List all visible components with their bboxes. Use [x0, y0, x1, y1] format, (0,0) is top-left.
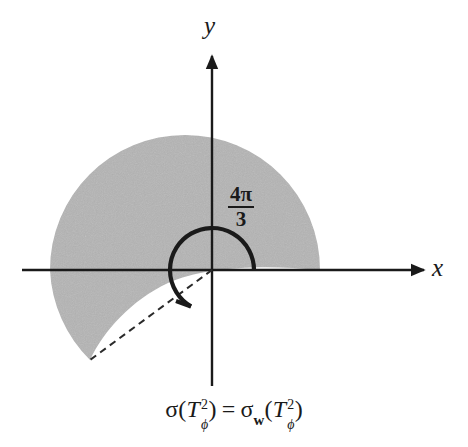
close-paren-left: ): [208, 396, 216, 422]
sigma-symbol-left: σ: [165, 396, 178, 422]
angle-fraction-numerator: 4π: [228, 184, 254, 206]
t-subscript-right: ϕ: [287, 418, 294, 432]
t-symbol-left: T: [186, 396, 200, 422]
y-axis-label: y: [204, 12, 215, 40]
t-superscript-left: 2: [201, 398, 208, 412]
t-symbol-right: T: [273, 396, 287, 422]
sigma-symbol-right: σ: [240, 396, 253, 422]
angle-arc-terminus: [176, 301, 191, 306]
caption-formula: σ(T2ϕ)=σw(T2ϕ): [0, 396, 468, 438]
t-subsup-right: 2ϕ: [287, 407, 294, 439]
shaded-sector-group: [50, 135, 320, 360]
t-subscript-left: ϕ: [201, 418, 208, 432]
t-superscript-right: 2: [287, 398, 294, 412]
open-paren-right: (: [264, 396, 272, 422]
angle-fraction-denominator: 3: [234, 208, 249, 230]
math-figure: y x 4π 3 σ(T2ϕ)=σw(T2ϕ): [0, 0, 468, 447]
sigma-w-subscript: w: [254, 412, 265, 428]
t-subsup-left: 2ϕ: [201, 407, 208, 439]
close-paren-right: ): [295, 396, 303, 422]
angle-measure-label: 4π 3: [228, 184, 254, 231]
shaded-sector: [50, 135, 320, 360]
x-axis-label: x: [432, 254, 443, 282]
equals-sign: =: [222, 396, 236, 422]
